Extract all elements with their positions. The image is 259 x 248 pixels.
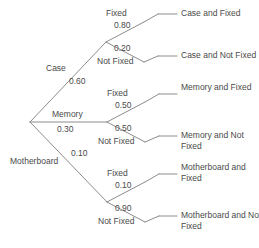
branch-label-case-fixed: Fixed — [106, 8, 127, 19]
branch-label-case-not-fixed: Not Fixed — [97, 56, 133, 67]
outcome-label-memory-not-fixed: Memory and Not Fixed — [181, 130, 259, 152]
leaf-connector-memory-not-fixed — [145, 136, 159, 142]
branch-probability-motherboard-not-fixed: 0.90 — [115, 203, 132, 214]
leaf-connector-memory-fixed — [145, 94, 159, 102]
leaf-connector-motherboard-not-fixed — [145, 216, 159, 222]
outcome-label-case-fixed: Case and Fixed — [181, 8, 259, 19]
branch-probability-case-not-fixed: 0.20 — [114, 43, 131, 54]
outcome-label-motherboard-not-fixed: Motherboard and Not Fixed — [181, 210, 259, 232]
branch-probability-memory-not-fixed: 0.50 — [115, 123, 132, 134]
leaf-connector-case-not-fixed — [144, 56, 158, 62]
branch-label-memory: Memory — [52, 109, 83, 120]
branch-label-memory-fixed: Fixed — [107, 88, 128, 99]
outcome-label-motherboard-fixed: Motherboard and Fixed — [181, 162, 259, 184]
leaf-connector-motherboard-fixed — [145, 174, 159, 182]
branch-label-motherboard-fixed: Fixed — [107, 168, 128, 179]
probability-tree-diagram: Case 0.60 Memory 0.30 Motherboard 0.10 F… — [0, 0, 259, 248]
leaf-connector-case-fixed — [144, 14, 158, 22]
branch-label-motherboard: Motherboard — [10, 156, 58, 167]
outcome-label-memory-fixed: Memory and Fixed — [181, 82, 259, 93]
branch-probability-case-fixed: 0.80 — [114, 20, 131, 31]
branch-label-case: Case — [46, 63, 66, 74]
outcome-label-case-not-fixed: Case and Not Fixed — [181, 50, 259, 61]
branch-probability-motherboard: 0.10 — [71, 148, 88, 159]
branch-probability-memory: 0.30 — [57, 124, 74, 135]
branch-probability-memory-fixed: 0.50 — [115, 100, 132, 111]
branch-probability-case: 0.60 — [69, 76, 86, 87]
branch-label-motherboard-not-fixed: Not Fixed — [98, 216, 134, 227]
branch-label-memory-not-fixed: Not Fixed — [98, 136, 134, 147]
branch-probability-motherboard-fixed: 0.10 — [115, 180, 132, 191]
